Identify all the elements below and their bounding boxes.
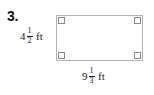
width-whole-number: 9 (82, 71, 88, 82)
right-angle-mark-top-right-icon (134, 17, 141, 24)
right-angle-mark-top-left-icon (58, 17, 65, 24)
right-angle-mark-bottom-left-icon (58, 52, 65, 59)
height-fraction-denominator: 2 (27, 37, 33, 45)
problem-number: 3. (7, 9, 18, 23)
worksheet-problem-figure: 3. 4 1 2 ft 9 1 3 ft (0, 0, 154, 95)
width-measurement-label: 9 1 3 ft (82, 67, 105, 85)
width-fraction: 1 3 (89, 67, 95, 85)
width-fraction-numerator: 1 (89, 67, 95, 75)
height-fraction-numerator: 1 (27, 27, 33, 35)
height-fraction: 1 2 (27, 27, 33, 45)
right-angle-mark-bottom-right-icon (134, 52, 141, 59)
height-unit: ft (36, 31, 43, 42)
height-whole-number: 4 (20, 31, 26, 42)
rectangle-shape (56, 15, 143, 61)
width-unit: ft (98, 71, 105, 82)
width-fraction-denominator: 3 (89, 77, 95, 85)
height-measurement-label: 4 1 2 ft (20, 27, 43, 45)
